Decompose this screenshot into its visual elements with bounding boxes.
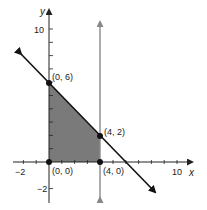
- x-tick-label-10: 10: [172, 167, 182, 177]
- y-axis-label: y: [39, 6, 46, 17]
- chart-canvas: y x 10 −2 −2 10 (0, 6) (4, 2) (0, 0) (4,…: [0, 0, 207, 210]
- y-tick-label-neg2: −2: [37, 184, 47, 194]
- y-tick-label-10: 10: [34, 25, 44, 35]
- point-0-0: [46, 159, 52, 165]
- point-label-4-0: (4, 0): [103, 166, 124, 176]
- x-axis-label: x: [188, 167, 195, 178]
- point-label-0-0: (0, 0): [52, 166, 73, 176]
- shaded-region: [49, 83, 100, 162]
- x-tick-label-neg2: −2: [15, 167, 25, 177]
- point-4-2: [97, 133, 103, 139]
- point-label-0-6: (0, 6): [52, 72, 73, 82]
- point-label-4-2: (4, 2): [104, 127, 125, 137]
- point-4-0: [97, 159, 103, 165]
- line-x-plus-y-6: [21, 54, 155, 192]
